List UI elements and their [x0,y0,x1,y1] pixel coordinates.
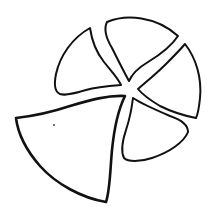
dot-mark [53,124,55,126]
pinwheel-diagram [0,0,210,215]
figure-canvas [0,0,210,215]
displaced-lower-left-wedge [16,96,125,202]
